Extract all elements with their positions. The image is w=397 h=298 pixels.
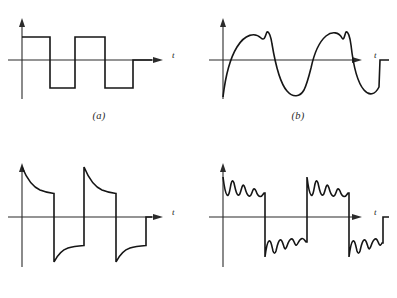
panel-c-waveform [22,167,152,262]
panel-a-y-axis [19,18,25,99]
panel-c: t (c) [0,149,198,298]
panel-b-axis-label: t [374,50,377,60]
panel-c-t-axis [8,214,163,220]
panel-d: t (d) [199,149,397,298]
panel-b-caption: (b) [199,110,397,121]
panel-a: t (a) [0,0,198,149]
panel-b-waveform [223,32,389,97]
panel-d-axis-label: t [374,207,377,217]
panel-d-t-axis [209,214,362,220]
panel-c-y-axis [19,163,25,267]
waveform-figure: t (a) t (b) [0,0,397,298]
panel-a-axis-label: t [172,50,175,60]
panel-c-axis-label: t [172,207,175,217]
panel-a-waveform [22,37,152,88]
panel-a-caption: (a) [0,110,198,121]
panel-b: t (b) [199,0,397,149]
